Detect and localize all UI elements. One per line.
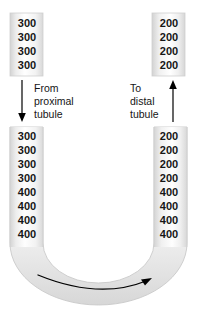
inflow-label: From proximal tubule bbox=[34, 82, 74, 121]
osmolarity-value: 300 bbox=[11, 30, 43, 44]
osmolarity-value: 200 bbox=[153, 157, 185, 171]
osmolarity-value: 300 bbox=[11, 171, 43, 185]
osmolarity-value: 400 bbox=[11, 227, 43, 241]
osmolarity-value: 300 bbox=[11, 157, 43, 171]
inflow-label-line1: From bbox=[34, 82, 74, 95]
osmolarity-value: 400 bbox=[153, 227, 185, 241]
descending-limb-loop-values: 300 300 300 300 400 400 400 400 bbox=[11, 129, 43, 241]
osmolarity-value: 200 bbox=[153, 44, 185, 58]
ascending-limb-top-values: 200 200 200 200 bbox=[153, 16, 185, 72]
osmolarity-value: 200 bbox=[153, 30, 185, 44]
osmolarity-value: 300 bbox=[11, 44, 43, 58]
outflow-label-line2: distal bbox=[130, 95, 159, 108]
osmolarity-value: 300 bbox=[11, 16, 43, 30]
osmolarity-value: 200 bbox=[153, 129, 185, 143]
osmolarity-value: 400 bbox=[11, 185, 43, 199]
osmolarity-value: 200 bbox=[153, 16, 185, 30]
osmolarity-value: 200 bbox=[153, 58, 185, 72]
inflow-label-line2: proximal bbox=[34, 95, 74, 108]
osmolarity-value: 300 bbox=[11, 129, 43, 143]
osmolarity-value: 300 bbox=[11, 58, 43, 72]
inflow-label-line3: tubule bbox=[34, 108, 74, 121]
outflow-arrow-icon bbox=[169, 80, 177, 122]
osmolarity-value: 300 bbox=[11, 143, 43, 157]
osmolarity-value: 400 bbox=[153, 185, 185, 199]
osmolarity-value: 400 bbox=[153, 213, 185, 227]
inflow-arrow-icon bbox=[18, 80, 26, 122]
outflow-label: To distal tubule bbox=[130, 82, 159, 121]
osmolarity-value: 400 bbox=[153, 199, 185, 213]
descending-limb-top-values: 300 300 300 300 bbox=[11, 16, 43, 72]
osmolarity-value: 200 bbox=[153, 171, 185, 185]
outflow-label-line3: tubule bbox=[130, 108, 159, 121]
loop-of-henle-diagram: 300 300 300 300 200 200 200 200 300 300 … bbox=[0, 0, 197, 311]
osmolarity-value: 200 bbox=[153, 143, 185, 157]
osmolarity-value: 400 bbox=[11, 213, 43, 227]
osmolarity-value: 400 bbox=[11, 199, 43, 213]
ascending-limb-loop-values: 200 200 200 200 400 400 400 400 bbox=[153, 129, 185, 241]
outflow-label-line1: To bbox=[130, 82, 159, 95]
